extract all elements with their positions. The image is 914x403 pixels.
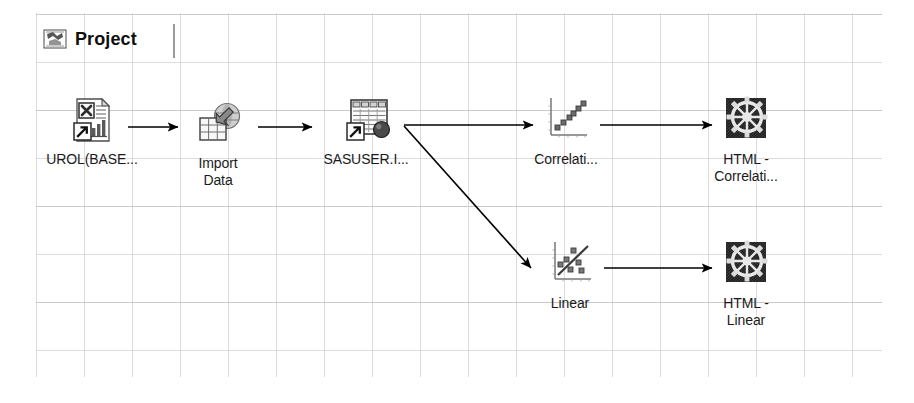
project-flow-screen: Project — [0, 0, 914, 403]
node-urol[interactable]: UROL(BASE... — [26, 96, 158, 168]
node-label-sasuser: SASUSER.I... — [323, 151, 408, 168]
html-output-gear-icon — [722, 96, 770, 144]
sas-dataset-icon — [342, 96, 390, 144]
node-label-html-correlation: HTML - Correlati... — [714, 151, 777, 185]
node-html-linear[interactable]: HTML - Linear — [680, 240, 812, 329]
excel-data-source-icon — [68, 96, 116, 144]
project-tab[interactable]: Project — [44, 22, 137, 56]
html-output-gear-icon — [722, 240, 770, 288]
node-label-html-linear: HTML - Linear — [723, 295, 769, 329]
linear-regression-icon — [546, 240, 594, 288]
connector-layer — [0, 0, 914, 403]
project-tab-label: Project — [75, 30, 137, 48]
sas-project-icon — [44, 28, 66, 50]
node-import-data[interactable]: Import Data — [152, 100, 284, 189]
node-linear[interactable]: Linear — [504, 240, 636, 312]
correlation-scatter-icon — [542, 96, 590, 144]
import-data-icon — [194, 100, 242, 148]
tab-separator — [173, 24, 175, 58]
node-label-linear: Linear — [551, 295, 589, 312]
node-label-urol: UROL(BASE... — [46, 151, 137, 168]
node-html-correlation[interactable]: HTML - Correlati... — [680, 96, 812, 185]
node-correlation[interactable]: Correlati... — [500, 96, 632, 168]
node-label-import-data: Import Data — [198, 155, 237, 189]
node-label-correlation: Correlati... — [534, 151, 597, 168]
node-sasuser[interactable]: SASUSER.I... — [300, 96, 432, 168]
